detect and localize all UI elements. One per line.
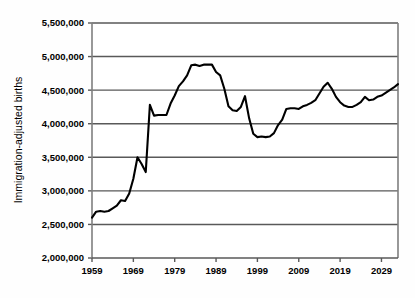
- plot-area-background: [92, 23, 398, 258]
- x-tick-label: 2009: [288, 265, 309, 276]
- y-tick-label: 5,500,000: [42, 17, 84, 28]
- x-tick-label: 1969: [123, 265, 144, 276]
- y-tick-label: 3,000,000: [42, 185, 84, 196]
- y-tick-label: 5,000,000: [42, 51, 84, 62]
- x-tick-label: 1979: [164, 265, 185, 276]
- y-axis-title: Immigration-adjusted births: [12, 77, 24, 204]
- y-tick-label: 4,500,000: [42, 85, 84, 96]
- x-tick-label: 1959: [81, 265, 102, 276]
- y-tick-label: 2,500,000: [42, 219, 84, 230]
- x-tick-label: 1999: [247, 265, 268, 276]
- y-tick-label: 2,000,000: [42, 252, 84, 263]
- y-tick-label: 4,000,000: [42, 118, 84, 129]
- x-tick-label: 2019: [330, 265, 351, 276]
- y-tick-label: 3,500,000: [42, 152, 84, 163]
- line-chart: 2,000,0002,500,0003,000,0003,500,0004,00…: [0, 0, 415, 298]
- x-tick-label: 1989: [205, 265, 226, 276]
- x-tick-label: 2029: [371, 265, 392, 276]
- chart-container: 2,000,0002,500,0003,000,0003,500,0004,00…: [0, 0, 415, 298]
